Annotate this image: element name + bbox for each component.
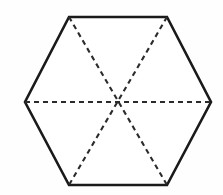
figure-canvas [0, 0, 223, 195]
hexagon-diagram [0, 0, 223, 195]
